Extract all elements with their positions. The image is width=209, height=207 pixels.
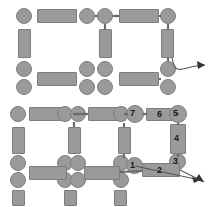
- exit-arrow-head: [197, 61, 205, 69]
- connector-overlay: [0, 0, 209, 207]
- b-link-e: [120, 171, 142, 172]
- diagram-canvas: 7654321: [0, 0, 209, 207]
- lower-exit-arrow-secondary: [135, 166, 200, 180]
